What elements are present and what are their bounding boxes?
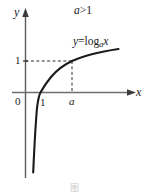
y-axis-arrowhead [22,8,29,17]
x-tick-label-1: 1 [40,97,46,108]
x-axis-arrowhead [127,89,136,95]
figure-caption: 图 [0,181,149,192]
logarithm-curve [33,49,118,173]
equation-argument: x [103,35,108,47]
x-axis-label: x [136,86,141,98]
origin-label: 0 [15,96,21,107]
curve-equation-label: y=logax [73,36,108,49]
x-tick-label-a: a [69,96,75,107]
equation-function: log [85,35,100,47]
logarithm-figure: y x a>1 y=logax 1 0 1 a 图 [0,0,149,192]
condition-label: a>1 [74,5,92,17]
condition-value: 1 [86,4,92,16]
y-axis-label: y [14,6,19,18]
y-tick-label-1: 1 [15,55,21,66]
